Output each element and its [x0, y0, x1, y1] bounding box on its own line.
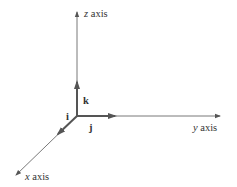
j-label: j — [88, 122, 93, 133]
x-axis-label: x axis — [24, 171, 49, 182]
k-label: k — [83, 95, 89, 106]
coordinate-diagram: z axis y axis x axis k i j — [0, 0, 237, 187]
i-label: i — [66, 111, 69, 122]
z-axis-label: z axis — [83, 8, 108, 19]
y-axis-label: y axis — [192, 122, 217, 133]
